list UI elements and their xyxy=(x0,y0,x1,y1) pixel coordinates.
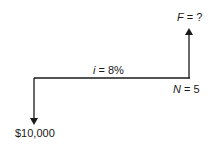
periods-label: N = 5 xyxy=(173,83,200,95)
down-arrow-icon xyxy=(30,118,38,125)
future-value-label: F = ? xyxy=(177,11,202,23)
interest-rate-label: i = 8% xyxy=(93,64,124,76)
present-value-label: $10,000 xyxy=(15,127,55,139)
up-arrow-icon xyxy=(185,28,193,35)
